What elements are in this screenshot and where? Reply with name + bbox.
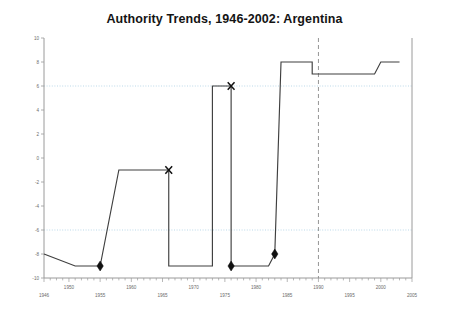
y-tick-label-2: 2 bbox=[36, 132, 39, 137]
series-line-polity-score bbox=[44, 62, 400, 266]
x-tick-label-1960: 1960 bbox=[126, 285, 137, 290]
y-tick-label-6: 6 bbox=[36, 84, 39, 89]
y-tick-label-4: 4 bbox=[36, 108, 39, 113]
y-tick-label--10: -10 bbox=[32, 276, 39, 281]
x-tick-label-1985: 1985 bbox=[282, 293, 293, 298]
y-tick-label--8: -8 bbox=[35, 252, 40, 257]
marker-diamond-1955 bbox=[97, 261, 103, 271]
y-tick-label-0: 0 bbox=[36, 156, 39, 161]
chart-container: Authority Trends, 1946-2002: Argentina 1… bbox=[0, 0, 449, 314]
x-tick-label-1970: 1970 bbox=[189, 285, 200, 290]
y-tick-label--2: -2 bbox=[35, 180, 40, 185]
x-tick-label-1950: 1950 bbox=[64, 285, 75, 290]
x-tick-label-1955: 1955 bbox=[95, 293, 106, 298]
y-tick-label--6: -6 bbox=[35, 228, 40, 233]
x-tick-label-1965: 1965 bbox=[157, 293, 168, 298]
x-tick-label-1975: 1975 bbox=[220, 293, 231, 298]
chart-plot-area: 1086420-2-4-6-8-101946195019551960196519… bbox=[0, 0, 449, 314]
x-tick-label-1980: 1980 bbox=[251, 285, 262, 290]
marker-diamond-1976 bbox=[228, 261, 234, 271]
y-tick-label-8: 8 bbox=[36, 60, 39, 65]
y-tick-label--4: -4 bbox=[35, 204, 40, 209]
x-tick-label-1995: 1995 bbox=[345, 293, 356, 298]
x-tick-label-1990: 1990 bbox=[313, 285, 324, 290]
x-tick-label-2005: 2005 bbox=[407, 293, 418, 298]
y-tick-label-10: 10 bbox=[34, 36, 40, 41]
x-tick-label-1946: 1946 bbox=[39, 293, 50, 298]
x-tick-label-2000: 2000 bbox=[376, 285, 387, 290]
